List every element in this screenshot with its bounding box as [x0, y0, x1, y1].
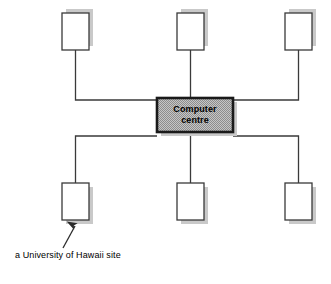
link-bottom-left — [76, 136, 158, 183]
site-bottom-right — [285, 183, 316, 224]
link-top-left — [76, 50, 158, 100]
computer-centre-node — [157, 98, 237, 136]
annotation-label: a University of Hawaii site — [15, 250, 121, 260]
site-top-right — [285, 9, 316, 50]
annotation-arrow — [63, 226, 75, 248]
site-bottom-center — [177, 183, 208, 224]
link-top-right — [233, 50, 299, 100]
network-topology-diagram: Computer centre a University of Hawaii s… — [0, 0, 331, 284]
diagram-canvas — [0, 0, 331, 284]
arrow-line — [63, 226, 75, 248]
site-top-center — [177, 9, 208, 50]
site-top-left — [62, 9, 93, 50]
link-bottom-right — [233, 136, 299, 183]
site-bottom-left — [62, 183, 93, 224]
